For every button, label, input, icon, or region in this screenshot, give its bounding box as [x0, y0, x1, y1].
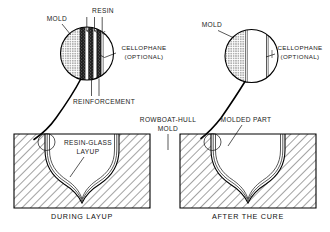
figure-canvas: MOLD RESIN CELLOPHANE (OPTIONAL) REINFOR… [0, 0, 330, 232]
detail-layer-mold-right [223, 28, 246, 88]
label-rowboat-hull-mold-line2: MOLD [158, 125, 178, 132]
detail-circle-during-layup [58, 25, 118, 85]
leader-mold-right [218, 31, 234, 39]
label-cellophane-left-line1: CELLOPHANE [121, 44, 166, 51]
detail-layer-reinforcement-2 [89, 25, 94, 85]
label-resin-glass-layup-line2: LAYUP [77, 148, 100, 155]
label-mold-left: MOLD [47, 15, 67, 22]
label-resin: RESIN [92, 7, 114, 14]
label-cellophane-right-line2: (OPTIONAL) [281, 53, 320, 60]
mold-body-right [180, 134, 316, 208]
label-molded-part: MOLDED PART [221, 116, 272, 123]
label-cellophane-left-line2: (OPTIONAL) [125, 53, 164, 60]
diagram-svg: MOLD RESIN CELLOPHANE (OPTIONAL) REINFOR… [0, 0, 330, 232]
leader-resin-glass-layup [70, 157, 84, 177]
caption-during-layup: DURING LAYUP [51, 212, 113, 221]
leader-detail-to-mold-left [34, 80, 81, 140]
leader-mold-left [62, 24, 71, 35]
mold-cross-section-right [180, 134, 316, 209]
detail-layer-resin-2 [93, 25, 97, 85]
label-reinforcement: REINFORCEMENT [73, 98, 135, 105]
leader-molded-part [228, 125, 242, 146]
detail-layer-resin-1 [85, 25, 88, 85]
label-rowboat-hull-mold-line1: ROWBOAT-HULL [140, 116, 196, 123]
label-resin-glass-layup-line1: RESIN-GLASS [64, 139, 112, 146]
label-mold-right: MOLD [202, 21, 222, 28]
caption-after-the-cure: AFTER THE CURE [212, 212, 284, 221]
detail-layer-reinforcement-1 [80, 25, 85, 85]
label-cellophane-right-line1: CELLOPHANE [277, 44, 322, 51]
